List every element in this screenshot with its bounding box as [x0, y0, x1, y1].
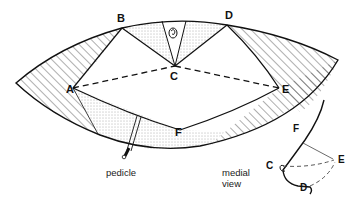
- medial-view-diagram: [280, 100, 335, 194]
- point-label-f: F: [175, 127, 182, 138]
- point-label-a: A: [66, 84, 74, 95]
- dotted-region-bottom: [73, 88, 225, 149]
- nipple-icon: [169, 28, 177, 38]
- medial-label-f: F: [293, 124, 299, 134]
- medial-label-c: C: [266, 161, 273, 171]
- dotted-region-bc: [122, 21, 175, 66]
- point-label-b: B: [117, 13, 125, 24]
- medial-breast-profile: [283, 100, 324, 194]
- medial-view-caption-line2: view: [222, 179, 241, 190]
- medial-dashed-d-e: [310, 162, 335, 186]
- medial-dashed-c-e: [283, 160, 334, 166]
- mammaplasty-diagram: B D C A E F pedicle medial view F C E D: [0, 0, 357, 206]
- point-label-c: C: [170, 71, 178, 82]
- pedicle-label: pedicle: [106, 168, 136, 179]
- medial-label-d: D: [300, 183, 307, 193]
- diagram-canvas: [0, 0, 357, 206]
- point-label-e: E: [282, 84, 289, 95]
- dashed-line-c-e: [175, 66, 279, 88]
- medial-line-f-e: [303, 143, 333, 159]
- point-label-d: D: [225, 10, 233, 21]
- medial-label-e: E: [338, 155, 345, 165]
